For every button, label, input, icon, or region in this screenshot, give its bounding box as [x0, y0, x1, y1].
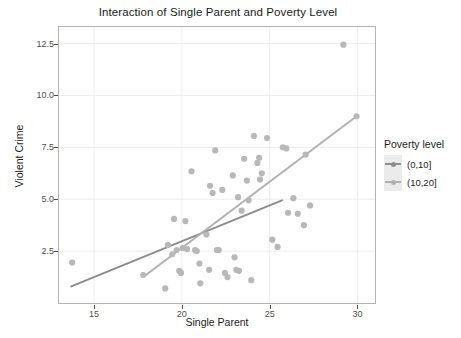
data-point	[194, 248, 200, 254]
legend-entry[interactable]: (0,10]	[384, 155, 460, 173]
y-tick-label: 7.5	[18, 142, 54, 152]
x-tick-mark	[94, 305, 95, 309]
chart-container: Interaction of Single Parent and Poverty…	[0, 0, 461, 338]
data-point	[162, 285, 168, 291]
trend-line	[71, 200, 282, 286]
data-point	[353, 113, 359, 119]
data-point	[269, 237, 275, 243]
legend-key-swatch	[384, 173, 402, 191]
legend-key-point	[391, 162, 396, 167]
data-point	[212, 147, 218, 153]
data-point	[203, 231, 209, 237]
data-point	[248, 277, 254, 283]
legend-title: Poverty level	[384, 138, 460, 150]
x-tick-label: 25	[250, 309, 290, 319]
data-point	[303, 152, 309, 158]
x-tick-label: 15	[74, 309, 114, 319]
trend-line	[143, 116, 356, 277]
data-point	[196, 260, 202, 266]
y-tick-label: 2.5	[18, 246, 54, 256]
data-point	[140, 272, 146, 278]
data-point	[171, 216, 177, 222]
data-point	[259, 170, 265, 176]
legend-entries: (0,10](10,20]	[384, 155, 460, 191]
x-tick-label: 20	[162, 309, 202, 319]
data-point	[236, 268, 242, 274]
data-point	[224, 274, 230, 280]
data-point	[231, 254, 237, 260]
data-point	[238, 208, 244, 214]
data-point	[178, 270, 184, 276]
x-axis-ticks: 15202530	[58, 309, 376, 323]
data-point	[182, 218, 188, 224]
y-axis-ticks: 2.55.07.510.012.5	[0, 26, 54, 304]
data-point	[174, 247, 180, 253]
data-point	[290, 195, 296, 201]
x-tick-mark	[357, 305, 358, 309]
y-tick-label: 5.0	[18, 194, 54, 204]
trend-lines	[71, 116, 356, 286]
data-point	[257, 176, 263, 182]
data-point	[246, 197, 252, 203]
data-point	[256, 155, 262, 161]
data-point	[188, 168, 194, 174]
chart-title: Interaction of Single Parent and Poverty…	[58, 6, 378, 18]
data-point	[301, 222, 307, 228]
data-point	[197, 280, 203, 286]
data-point	[184, 246, 190, 252]
legend: Poverty level (0,10](10,20]	[384, 138, 460, 191]
y-tick-label: 10.0	[18, 90, 54, 100]
data-point	[206, 267, 212, 273]
data-point	[295, 211, 301, 217]
data-point	[241, 156, 247, 162]
x-tick-mark	[182, 305, 183, 309]
x-tick-mark	[270, 305, 271, 309]
y-tick-label: 12.5	[18, 39, 54, 49]
plot-svg	[59, 27, 375, 303]
plot-panel	[58, 26, 376, 304]
legend-entry[interactable]: (10,20]	[384, 173, 460, 191]
legend-label: (10,20]	[407, 177, 437, 188]
gridlines	[59, 27, 375, 303]
data-point	[69, 259, 75, 265]
legend-key-swatch	[384, 155, 402, 173]
data-point	[340, 42, 346, 48]
legend-label: (0,10]	[407, 159, 431, 170]
data-point	[274, 244, 280, 250]
data-point	[307, 202, 313, 208]
x-tick-label: 30	[337, 309, 377, 319]
data-point	[235, 194, 241, 200]
data-point	[219, 187, 225, 193]
data-point	[210, 190, 216, 196]
data-point	[264, 135, 270, 141]
scatter-points	[69, 42, 360, 292]
data-point	[283, 145, 289, 151]
data-point	[216, 247, 222, 253]
data-point	[230, 172, 236, 178]
data-point	[251, 133, 257, 139]
data-point	[285, 210, 291, 216]
legend-key-point	[391, 180, 396, 185]
data-point	[207, 183, 213, 189]
data-point	[165, 242, 171, 248]
data-point	[244, 177, 250, 183]
